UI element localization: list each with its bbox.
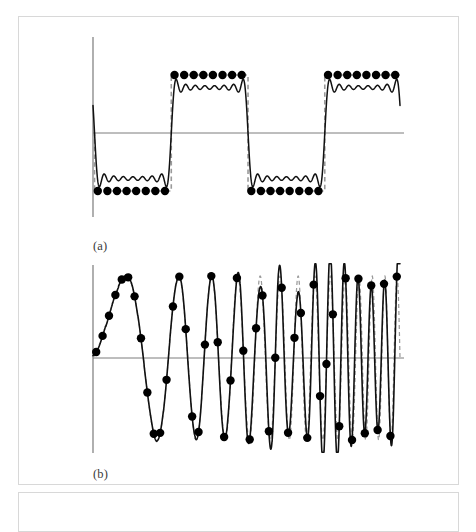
adjacent-panel	[18, 492, 459, 532]
figure-panel: (a) (b)	[18, 16, 459, 485]
panel-a-plot	[19, 17, 458, 484]
panel-b-label: (b)	[93, 467, 108, 482]
panel-a-label: (a)	[93, 239, 107, 254]
